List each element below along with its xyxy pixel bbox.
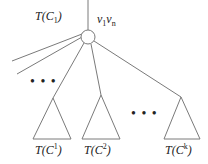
node-label: v1vn (97, 13, 116, 28)
edge-to-subtree-k (94, 41, 181, 97)
root-node-circle (81, 30, 95, 44)
subtree-label-k: T(Ck) (165, 143, 192, 156)
subtree-triangle-1 (33, 98, 71, 139)
subtree-triangle-k (164, 97, 200, 139)
edge-to-subtree-2 (91, 44, 101, 95)
subtree-label-2: T(C2) (84, 143, 111, 156)
ellipsis-bottom: • • • (131, 107, 158, 121)
root-label: T(C1) (35, 10, 62, 25)
subtree-label-1: T(C1) (35, 143, 62, 156)
subtree-triangle-2 (82, 95, 120, 139)
ellipsis-left: • • • (30, 75, 57, 89)
